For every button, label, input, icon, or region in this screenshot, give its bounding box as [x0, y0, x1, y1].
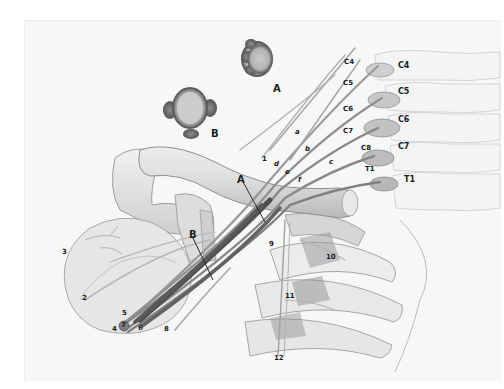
vertebra-label-c4: C4 [398, 62, 409, 70]
trunk-label-a: a [295, 129, 300, 136]
numbered-label-10: 10 [326, 254, 336, 261]
numbered-label-11: 11 [285, 293, 295, 300]
inset-b-cross-section [163, 88, 217, 139]
trunk-label-c: c [329, 159, 333, 166]
numbered-label-1: 1 [262, 156, 267, 163]
inset-a-cross-section [241, 39, 272, 76]
root-label-c7: C7 [343, 128, 353, 135]
section-marker-b: B [189, 230, 197, 240]
root-label-c5: C5 [343, 80, 353, 87]
numbered-label-9: 9 [269, 241, 274, 248]
division-label-f: f [298, 177, 301, 184]
vertebra-label-c6: C6 [398, 116, 409, 124]
root-label-c6: C6 [343, 106, 353, 113]
inset-label-a: A [273, 84, 281, 94]
vertebra-label-c5: C5 [398, 88, 409, 96]
rib-cage [245, 213, 427, 372]
root-label-t1: T1 [365, 166, 375, 173]
numbered-label-4: 4 [112, 326, 117, 333]
brachial-plexus-illustration [0, 0, 504, 389]
inset-label-b: B [211, 129, 219, 139]
numbered-label-2: 2 [82, 295, 87, 302]
trunk-label-b: b [305, 146, 310, 153]
root-label-c4: C4 [344, 59, 354, 66]
vertebra-label-c7: C7 [398, 143, 409, 151]
division-label-e: e [285, 169, 290, 176]
numbered-label-8: 8 [164, 326, 169, 333]
root-label-c8: C8 [361, 145, 371, 152]
numbered-label-3: 3 [62, 249, 67, 256]
numbered-label-6: 6 [138, 325, 143, 332]
numbered-label-12: 12 [274, 355, 284, 362]
numbered-label-7: 7 [121, 322, 126, 329]
section-marker-a: A [237, 175, 245, 185]
vertebral-column [362, 51, 500, 211]
vertebra-label-t1: T1 [404, 176, 415, 184]
division-label-d: d [274, 161, 279, 168]
numbered-label-5: 5 [122, 310, 127, 317]
